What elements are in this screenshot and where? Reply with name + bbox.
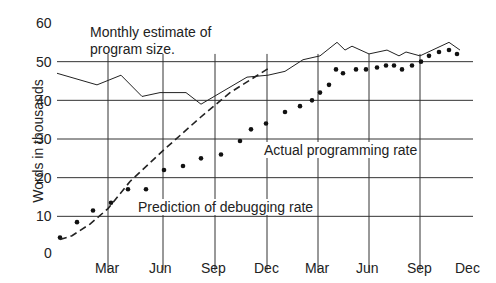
- series-actual-rate-dot: [437, 50, 442, 55]
- series-actual-rate-dot: [364, 67, 369, 72]
- series-actual-rate-dot: [181, 164, 186, 169]
- series-actual-rate-dot: [419, 59, 424, 64]
- series-actual-rate-dot: [375, 65, 380, 70]
- series-actual-rate-dot: [91, 208, 96, 213]
- y-tick-0: 0: [44, 245, 52, 261]
- x-tick-sep-1: Sep: [201, 260, 226, 276]
- annotation-debug-prediction: Prediction of debugging rate: [136, 199, 315, 215]
- series-actual-rate-dot: [219, 152, 224, 157]
- series-actual-rate-dot: [334, 67, 339, 72]
- x-tick-mar-1: Mar: [95, 260, 119, 276]
- y-tick-20: 20: [36, 170, 52, 186]
- annotation-estimate: Monthly estimate of: [90, 24, 211, 40]
- chart-canvas: [0, 0, 496, 283]
- series-actual-rate-dot: [298, 104, 303, 109]
- x-tick-jun-2: Jun: [356, 260, 379, 276]
- series-actual-rate-dot: [354, 67, 359, 72]
- annotation-actual-rate: Actual programming rate: [262, 142, 419, 158]
- y-tick-40: 40: [36, 93, 52, 109]
- series-actual-rate-dot: [341, 71, 346, 76]
- series-actual-rate-dot: [238, 139, 243, 144]
- y-tick-50: 50: [36, 54, 52, 70]
- series-actual-rate-dot: [427, 54, 432, 59]
- series-actual-rate-dot: [249, 127, 254, 132]
- series-actual-rate-dot: [283, 110, 288, 115]
- y-tick-60: 60: [36, 15, 52, 31]
- y-tick-10: 10: [36, 208, 52, 224]
- series-actual-rate-dot: [199, 156, 204, 161]
- series-actual-rate-dot: [392, 63, 397, 68]
- series-actual-rate-dot: [264, 121, 269, 126]
- series-actual-rate-dot: [310, 98, 315, 103]
- y-tick-30: 30: [36, 131, 52, 147]
- series-actual-rate-dot: [455, 52, 460, 57]
- series-actual-rate-dot: [109, 201, 114, 206]
- series-actual-rate-dot: [400, 67, 405, 72]
- series-actual-rate-dot: [447, 48, 452, 53]
- series-actual-rate-dot: [144, 187, 149, 192]
- series-actual-rate-dot: [126, 187, 131, 192]
- x-tick-jun-1: Jun: [149, 260, 172, 276]
- series-actual-rate-dot: [410, 63, 415, 68]
- series-actual-rate-dot: [327, 83, 332, 88]
- series-actual-rate-dot: [318, 90, 323, 95]
- series-actual-rate-dot: [162, 168, 167, 173]
- x-tick-dec-2: Dec: [455, 260, 480, 276]
- annotation-estimate-2: program size.: [90, 41, 175, 57]
- series-actual-rate-dot: [384, 63, 389, 68]
- x-tick-sep-2: Sep: [407, 260, 432, 276]
- x-tick-mar-2: Mar: [305, 260, 329, 276]
- x-tick-dec-1: Dec: [254, 260, 279, 276]
- series-actual-rate-dot: [75, 220, 80, 225]
